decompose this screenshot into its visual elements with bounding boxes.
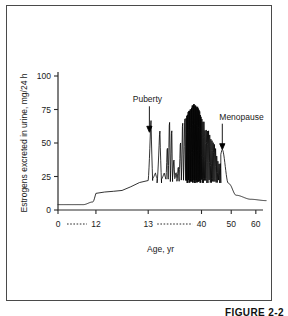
annotation-menopause: Menopause <box>219 112 264 150</box>
annotation-label: Menopause <box>219 112 264 122</box>
x-axis-title: Age, yr <box>147 244 174 254</box>
annotation-puberty: Puberty <box>133 94 163 132</box>
x-tick-label: 50 <box>226 219 236 229</box>
estrogen-excretion-chart: 025507510001213405060Age, yrEstrogens ex… <box>7 6 273 302</box>
y-tick-label: 75 <box>42 105 52 115</box>
y-tick-label: 100 <box>37 71 51 81</box>
annotation-label: Puberty <box>133 94 163 104</box>
y-tick-label: 50 <box>42 138 52 148</box>
x-tick-label: 12 <box>91 219 101 229</box>
figure-frame: 025507510001213405060Age, yrEstrogens ex… <box>6 5 272 301</box>
x-tick-label: 13 <box>143 219 153 229</box>
x-tick-label: 60 <box>251 219 261 229</box>
x-tick-label: 0 <box>56 219 61 229</box>
x-tick-label: 40 <box>197 219 207 229</box>
y-tick-label: 0 <box>46 205 51 215</box>
y-axis-title: Estrogens excreted in urine, mg/24 h <box>19 73 29 212</box>
figure-caption: FIGURE 2-2 <box>225 307 284 316</box>
y-tick-label: 25 <box>42 172 52 182</box>
